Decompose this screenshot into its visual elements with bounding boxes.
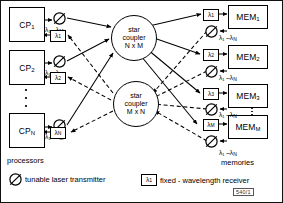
fixed-wavelength-receiver-mem2: λ2 [203, 49, 219, 61]
coupler-line1: star [128, 26, 140, 34]
coupler-line2: coupler [123, 34, 146, 42]
star-coupler-n-x-m: star coupler N x M [111, 15, 157, 61]
memory-block-1: MEM1 [228, 5, 268, 29]
tunable-laser-transmitter-icon-cp2 [53, 55, 66, 68]
tunable-laser-transmitter-icon-mem1 [205, 25, 218, 38]
memories-ellipsis [251, 107, 253, 116]
processor-block-n: CPN [9, 113, 45, 148]
legend-receiver-row: λ1 fixed - wavelength receiver [141, 174, 249, 186]
fixed-wavelength-receiver-icon-legend: λ1 [141, 174, 157, 186]
memory-label-3: MEM3 [236, 91, 260, 101]
processors-caption: processors [7, 156, 44, 165]
processor-block-2: CP2 [9, 50, 45, 85]
tunable-laser-transmitter-icon-legend [9, 173, 22, 186]
tunable-laser-transmitter-icon-cp1 [53, 12, 66, 25]
fixed-wavelength-receiver-cp2: λ2 [50, 72, 66, 84]
wavelength-range-mem1: λ₁ –λN [219, 34, 237, 43]
processor-label-n: CPN [19, 126, 35, 136]
wavelength-range-mem2: λ₁ –λN [219, 74, 237, 83]
memory-label-m: MEMM [235, 122, 260, 132]
wavelength-range-mem3: λ₁ –λN [219, 111, 237, 120]
processor-label-1: CP1 [19, 20, 34, 30]
fixed-wavelength-receiver-mem1: λ1 [203, 9, 219, 21]
star-coupler-m-x-n: star coupler M x N [113, 81, 159, 127]
figure-optical-interconnect-diagram: CP1 CP2 CPN λ₁ –λM λ₁ –λM λ₁ –λM λ1 λ2 [0, 0, 283, 203]
legend-transmitter-label: tunable laser transmitter [25, 175, 105, 184]
coupler2-line1: star [130, 92, 142, 100]
processor-block-1: CP1 [9, 7, 45, 42]
figure-id-box: 540/1 [233, 188, 254, 196]
legend-receiver-label: fixed - wavelength receiver [160, 176, 249, 185]
memory-label-1: MEM1 [236, 12, 260, 22]
memories-caption: memories [221, 158, 254, 167]
memory-block-3: MEM3 [228, 84, 268, 108]
fixed-wavelength-receiver-mem3: λ3 [203, 88, 219, 100]
coupler-line3: N x M [125, 42, 143, 50]
processor-label-2: CP2 [19, 63, 34, 73]
processors-ellipsis [25, 89, 27, 107]
coupler2-line3: M x N [127, 108, 145, 116]
tunable-laser-transmitter-icon-memm [205, 135, 218, 148]
memory-block-2: MEM2 [228, 45, 268, 69]
tunable-laser-transmitter-icon-mem2 [205, 65, 218, 78]
fixed-wavelength-receiver-cpn: λN [50, 127, 66, 139]
coupler2-line2: coupler [125, 100, 148, 108]
fixed-wavelength-receiver-memm: λM [203, 119, 219, 131]
legend-transmitter-row: tunable laser transmitter [9, 173, 105, 186]
tunable-laser-transmitter-icon-mem3 [205, 103, 218, 116]
memory-label-2: MEM2 [236, 52, 260, 62]
fixed-wavelength-receiver-cp1: λ1 [50, 30, 66, 42]
wavelength-range-memm: λ₁ –λN [219, 149, 237, 158]
